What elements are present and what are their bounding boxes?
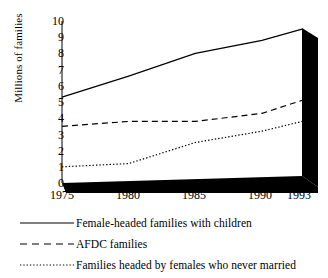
legend-label: Families headed by females who never mar… xyxy=(76,259,296,271)
plot-area: Millions of families 10 9 8 7 6 5 4 3 2 … xyxy=(0,0,328,210)
legend-label: Female-headed families with children xyxy=(76,217,252,229)
chart-legend: Female-headed families with children AFD… xyxy=(0,212,328,275)
chart-container: Millions of families 10 9 8 7 6 5 4 3 2 … xyxy=(0,0,328,278)
right-wall-panel xyxy=(302,28,318,187)
series-line-never-married xyxy=(62,121,302,166)
legend-label: AFDC families xyxy=(76,238,147,250)
legend-key-solid-line-icon xyxy=(18,218,76,228)
legend-key-dashed-line-icon xyxy=(18,239,76,249)
base-shadow-wedge xyxy=(62,176,318,193)
legend-key-dotted-line-icon xyxy=(18,260,76,270)
series-line-afdc xyxy=(62,100,302,126)
legend-item-afdc: AFDC families xyxy=(0,233,328,254)
series-line-female-headed xyxy=(62,29,302,97)
legend-item-female-headed: Female-headed families with children xyxy=(0,212,328,233)
chart-svg xyxy=(0,0,328,210)
legend-item-never-married: Families headed by females who never mar… xyxy=(0,254,328,275)
